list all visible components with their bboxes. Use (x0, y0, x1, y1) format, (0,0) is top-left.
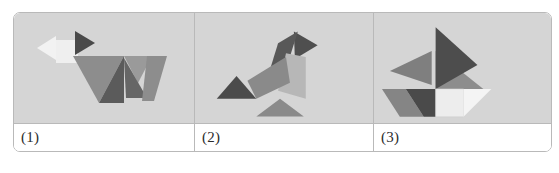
white-hull-triangle (463, 89, 491, 117)
white-large-triangle (37, 36, 56, 60)
figure-label-3: (3) (374, 130, 399, 145)
tangram-stage-2 (195, 13, 373, 123)
mid-gray-left-sail-triangle (390, 51, 432, 85)
tangram-figures-table: (1) (2) (13, 12, 552, 152)
gray-base-triangle (256, 99, 303, 117)
figure-caption-3: (3) (374, 123, 551, 151)
dark-triangle-head (75, 31, 95, 55)
figure-panel-1: (1) (14, 13, 194, 151)
white-hull-square (436, 89, 464, 117)
figure-caption-1: (1) (14, 123, 194, 151)
white-square (56, 40, 78, 63)
tangram-stage-3 (374, 13, 551, 123)
tangram-sailboat-svg (374, 13, 551, 123)
figure-panel-2: (2) (194, 13, 374, 151)
tangram-stage-1 (14, 13, 194, 123)
figure-label-2: (2) (195, 130, 220, 145)
dark-top-triangle (294, 31, 318, 59)
tangram-dog-svg (14, 13, 194, 123)
figure-caption-2: (2) (195, 123, 373, 151)
figure-label-1: (1) (14, 130, 39, 145)
mid-gray-body (247, 57, 290, 99)
tangram-leaping-figure-svg (195, 13, 373, 123)
figure-panel-3: (3) (374, 13, 551, 151)
